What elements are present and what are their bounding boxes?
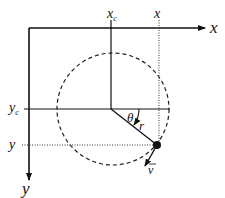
xc-label: xc bbox=[106, 6, 117, 23]
y-axis-label: y bbox=[20, 179, 30, 198]
y-tick-label: y bbox=[7, 137, 16, 152]
radius-line bbox=[111, 109, 157, 145]
x-axis-label: x bbox=[209, 18, 218, 37]
x-tick-label: x bbox=[153, 6, 161, 21]
velocity-label: v bbox=[148, 163, 154, 177]
radius-label: r bbox=[139, 118, 145, 133]
yc-label: yc bbox=[7, 100, 19, 117]
theta-label: θ bbox=[127, 110, 134, 125]
diagram-canvas: x y xc x yc y θ r v bbox=[0, 0, 225, 198]
